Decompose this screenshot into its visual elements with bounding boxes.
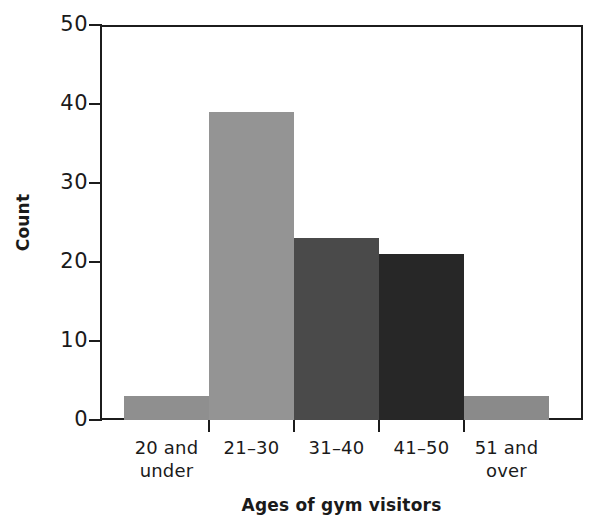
- x-tick-label-line2: over: [447, 459, 567, 482]
- x-tick-label-line1: 21–30: [224, 437, 280, 458]
- y-tick-mark: [89, 340, 102, 342]
- bar: [124, 396, 209, 420]
- x-tick-mark: [208, 420, 210, 432]
- x-tick-label-line1: 31–40: [309, 437, 365, 458]
- y-tick-label: 50: [34, 14, 88, 35]
- x-tick-label-line1: 51 and: [475, 437, 539, 458]
- y-axis-ticks: 01020304050: [34, 0, 88, 525]
- y-tick-mark: [89, 261, 102, 263]
- x-tick-mark: [293, 420, 295, 432]
- x-axis-title: Ages of gym visitors: [100, 495, 583, 515]
- y-tick-mark: [89, 103, 102, 105]
- y-tick-mark: [89, 419, 102, 421]
- x-tick-mark: [378, 420, 380, 432]
- y-tick-mark: [89, 182, 102, 184]
- bar: [464, 396, 549, 420]
- x-tick-label-line1: 41–50: [394, 437, 450, 458]
- x-tick-mark: [463, 420, 465, 432]
- y-tick-label: 0: [34, 409, 88, 430]
- bar: [294, 238, 379, 420]
- bars-container: [100, 25, 583, 420]
- y-tick-label: 20: [34, 251, 88, 272]
- y-tick-mark: [89, 24, 102, 26]
- y-tick-label: 10: [34, 330, 88, 351]
- x-tick-label: 51 andover: [447, 436, 567, 482]
- bar: [379, 254, 464, 420]
- y-tick-label: 40: [34, 93, 88, 114]
- histogram-chart: Count 01020304050 20 andunder21–3031–404…: [0, 0, 600, 525]
- y-axis-title: Count: [10, 25, 36, 420]
- bar: [209, 112, 294, 420]
- x-tick-label-line2: under: [107, 459, 227, 482]
- x-tick-label-line1: 20 and: [135, 437, 199, 458]
- y-tick-label: 30: [34, 172, 88, 193]
